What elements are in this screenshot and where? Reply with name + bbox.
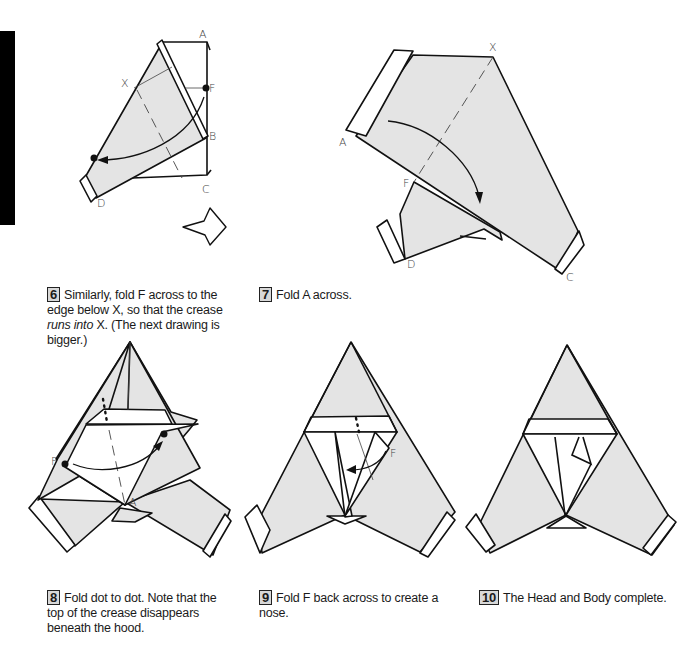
step-6-text-italic: runs into: [47, 318, 93, 332]
step-8-text: Fold dot to dot. Note that the top of th…: [47, 591, 216, 635]
label-b: B: [209, 130, 216, 143]
step-10-text: The Head and Body complete.: [503, 591, 666, 605]
turn-over-arrow-icon: [183, 208, 226, 245]
step-9-caption: 9Fold F back across to create a nose.: [259, 590, 449, 621]
step-6-number-badge: 6: [47, 287, 60, 302]
step-9-text: Fold F back across to create a nose.: [259, 591, 438, 620]
step-7-number-badge: 7: [259, 287, 272, 302]
step-6-caption: 6Similarly, fold F across to the edge be…: [47, 287, 247, 348]
step-10-caption: 10The Head and Body complete.: [479, 590, 689, 606]
label-a: A: [339, 136, 347, 149]
section-tab-bar: [0, 31, 15, 225]
label-f: F: [390, 447, 396, 460]
step-8-number-badge: 8: [47, 590, 60, 605]
label-x: X: [121, 77, 129, 90]
label-c: C: [202, 183, 210, 196]
label-f: F: [403, 177, 409, 190]
label-a: A: [199, 28, 207, 41]
step-7-caption: 7Fold A across.: [259, 287, 459, 303]
step-6-text-a: Similarly, fold F across to the edge bel…: [47, 288, 223, 317]
step-7-diagram: X A F D C: [330, 20, 630, 300]
label-a: A: [129, 496, 137, 509]
label-f: F: [51, 455, 57, 468]
step-8-caption: 8Fold dot to dot. Note that the top of t…: [47, 590, 232, 636]
step-10-diagram: [462, 335, 693, 560]
label-c: C: [566, 271, 574, 284]
label-x: X: [489, 41, 497, 54]
step-9-number-badge: 9: [259, 590, 272, 605]
step-7-text: Fold A across.: [276, 288, 352, 302]
label-f: F: [209, 82, 215, 95]
step-9-diagram: F: [240, 335, 470, 560]
step-10-number-badge: 10: [479, 590, 499, 605]
step-8-diagram: F A: [25, 335, 240, 560]
label-d: D: [97, 197, 105, 210]
step-6-diagram: A F X B C D: [60, 20, 260, 260]
label-d: D: [407, 258, 415, 271]
